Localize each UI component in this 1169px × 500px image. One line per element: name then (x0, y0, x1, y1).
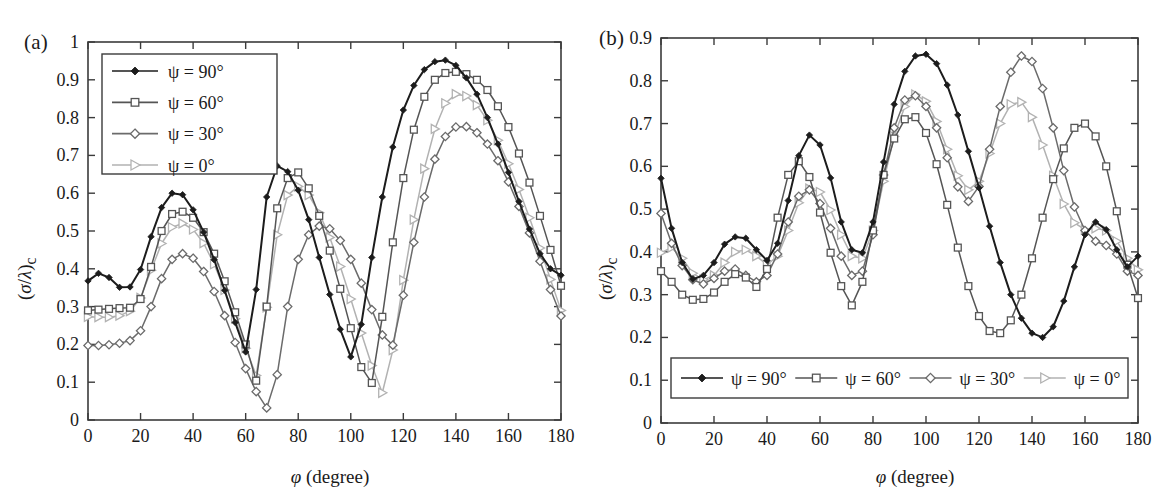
marker-open-square (1071, 124, 1078, 131)
x-tick-label: 180 (1125, 429, 1152, 449)
marker-open-diamond (263, 404, 271, 412)
x-tick-label: 60 (237, 426, 255, 446)
marker-open-square (933, 161, 940, 168)
marker-open-diamond (996, 102, 1004, 110)
marker-open-diamond (231, 338, 239, 346)
marker-open-square (838, 283, 845, 290)
marker-open-square (827, 249, 834, 256)
marker-open-square (368, 380, 375, 387)
x-tick-label: 140 (1019, 429, 1046, 449)
y-tick-label: 0.1 (57, 372, 80, 392)
legend[interactable]: ψ = 90°ψ = 60°ψ = 30°ψ = 0° (102, 54, 277, 176)
y-tick-label: 0.7 (630, 114, 653, 134)
marker-open-square (700, 296, 707, 303)
marker-open-square (337, 285, 344, 292)
marker-open-diamond (294, 255, 302, 263)
marker-filled-diamond (658, 175, 664, 181)
marker-open-triangle-right (452, 90, 460, 99)
panel-a-plot: 02040608010012014016018000.10.20.30.40.5… (20, 10, 580, 470)
marker-filled-diamond (891, 101, 897, 107)
x-tick-label: 160 (495, 426, 522, 446)
legend-label: ψ = 60° (168, 93, 224, 113)
marker-open-diamond (837, 252, 845, 260)
marker-open-diamond (431, 155, 439, 163)
marker-filled-diamond (1071, 264, 1077, 270)
legend-label: ψ = 90° (168, 62, 224, 82)
marker-open-triangle-right (742, 245, 750, 254)
marker-filled-diamond (997, 259, 1003, 265)
x-tick-label: 40 (758, 429, 776, 449)
marker-filled-diamond (785, 197, 791, 203)
y-tick-label: 0.5 (630, 199, 653, 219)
x-tick-label: 80 (289, 426, 307, 446)
marker-open-square (106, 305, 113, 312)
marker-open-diamond (1007, 68, 1015, 76)
marker-open-diamond (273, 371, 281, 379)
marker-open-square (158, 228, 165, 235)
marker-open-diamond (1070, 203, 1078, 211)
marker-filled-diamond (1008, 291, 1014, 297)
marker-open-square (274, 205, 281, 212)
marker-open-square (679, 291, 686, 298)
marker-open-square (753, 284, 760, 291)
series-1 (658, 114, 1142, 337)
marker-open-square (137, 296, 144, 303)
x-tick-label: 20 (132, 426, 150, 446)
x-tick-label: 0 (84, 426, 93, 446)
marker-open-square (526, 179, 533, 186)
y-tick-label: 0.5 (57, 221, 80, 241)
marker-filled-diamond (1061, 298, 1067, 304)
legend-label: ψ = 0° (1074, 369, 1121, 389)
y-tick-label: 0.8 (630, 71, 653, 91)
marker-filled-diamond (263, 194, 269, 200)
marker-filled-diamond (827, 175, 833, 181)
marker-filled-diamond (253, 286, 259, 292)
marker-open-diamond (221, 312, 229, 320)
legend-label: ψ = 90° (731, 369, 787, 389)
x-tick-label: 60 (811, 429, 829, 449)
marker-open-diamond (494, 157, 502, 165)
marker-open-triangle-right (827, 205, 835, 214)
marker-open-square (421, 93, 428, 100)
marker-filled-diamond (379, 194, 385, 200)
marker-open-diamond (1028, 57, 1036, 65)
x-tick-label: 120 (390, 426, 417, 446)
marker-open-square (1060, 145, 1067, 152)
marker-filled-diamond (348, 354, 354, 360)
x-tick-label: 100 (337, 426, 364, 446)
panel-b-x-axis-title: φ (degree) (785, 466, 1045, 488)
legend[interactable]: ψ = 90°ψ = 60°ψ = 30°ψ = 0° (671, 358, 1128, 398)
marker-open-square (912, 114, 919, 121)
marker-open-diamond (242, 364, 250, 372)
marker-open-diamond (1038, 84, 1046, 92)
y-tick-label: 0.4 (57, 259, 80, 279)
marker-open-square (806, 174, 813, 181)
y-tick-label: 0.6 (630, 156, 653, 176)
marker-open-square (379, 313, 386, 320)
marker-open-triangle-right (116, 311, 124, 320)
marker-open-square (901, 116, 908, 123)
marker-open-square (326, 247, 333, 254)
marker-open-square (547, 246, 554, 253)
marker-open-square (785, 171, 792, 178)
marker-open-square (1113, 208, 1120, 215)
marker-open-square (965, 283, 972, 290)
marker-open-square (131, 99, 139, 107)
marker-open-diamond (368, 305, 376, 313)
marker-open-diamond (105, 341, 113, 349)
marker-open-diamond (1049, 124, 1057, 132)
legend-label: ψ = 0° (168, 156, 215, 176)
marker-open-square (400, 175, 407, 182)
legend-label: ψ = 30° (168, 124, 224, 144)
marker-filled-diamond (337, 326, 343, 332)
panel-b: (b) (σ/λ)c φ (degree) 020406080100120140… (585, 0, 1169, 500)
y-tick-label: 0.3 (630, 285, 653, 305)
marker-open-diamond (284, 302, 292, 310)
marker-open-diamond (848, 271, 856, 279)
marker-open-diamond (357, 279, 365, 287)
y-tick-label: 1 (70, 32, 79, 52)
x-tick-label: 20 (705, 429, 723, 449)
marker-open-square (537, 212, 544, 219)
panel-b-plot: 02040608010012014016018000.10.20.30.40.5… (603, 8, 1163, 468)
marker-open-square (127, 304, 134, 311)
